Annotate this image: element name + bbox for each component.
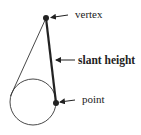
point-dot <box>53 100 59 106</box>
cone-side-line <box>11 18 47 96</box>
base-circle <box>10 79 56 125</box>
cone-diagram: vertex slant height point <box>0 0 141 135</box>
point-arrow-icon <box>60 100 75 102</box>
point-label: point <box>82 93 105 105</box>
slant-height-label: slant height <box>78 54 135 67</box>
slant-height-line <box>46 18 56 103</box>
vertex-arrow-icon <box>51 15 68 18</box>
vertex-dot <box>43 15 49 21</box>
vertex-label: vertex <box>75 8 103 20</box>
